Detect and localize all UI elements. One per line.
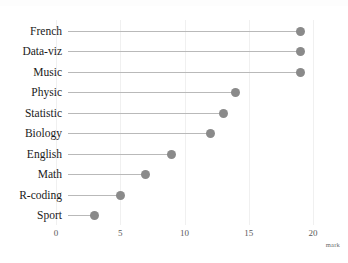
stem-line — [68, 51, 300, 52]
category-label-music: Music — [0, 62, 62, 82]
data-point-french[interactable] — [296, 27, 305, 36]
stem-line — [68, 72, 300, 73]
category-label-r-coding: R-coding — [0, 185, 62, 205]
category-label-statistic: Statistic — [0, 103, 62, 123]
category-label-physic: Physic — [0, 82, 62, 102]
x-axis-tick-5: 5 — [108, 228, 132, 238]
stem-line — [68, 92, 236, 93]
data-point-statistic[interactable] — [219, 109, 228, 118]
category-label-sport: Sport — [0, 205, 62, 225]
data-point-english[interactable] — [167, 150, 176, 159]
chart-row: R-coding — [0, 185, 348, 205]
x-axis-tick-20: 20 — [301, 228, 325, 238]
chart-row: Physic — [0, 82, 348, 102]
chart-row: English — [0, 144, 348, 164]
stem-line — [68, 31, 300, 32]
plot-area: FrenchData-vizMusicPhysicStatisticBiolog… — [0, 0, 348, 263]
data-point-physic[interactable] — [231, 88, 240, 97]
data-point-r-coding[interactable] — [116, 191, 125, 200]
data-point-biology[interactable] — [206, 129, 215, 138]
x-axis-tick-0: 0 — [44, 228, 68, 238]
category-label-english: English — [0, 144, 62, 164]
chart-row: Music — [0, 62, 348, 82]
category-label-french: French — [0, 21, 62, 41]
x-axis-tick-10: 10 — [173, 228, 197, 238]
chart-row: Sport — [0, 205, 348, 225]
category-label-math: Math — [0, 164, 62, 184]
category-label-biology: Biology — [0, 123, 62, 143]
data-point-music[interactable] — [296, 68, 305, 77]
stem-line — [68, 113, 223, 114]
lollipop-chart: FrenchData-vizMusicPhysicStatisticBiolog… — [0, 0, 348, 263]
chart-row: Biology — [0, 123, 348, 143]
chart-row: Data-viz — [0, 41, 348, 61]
x-axis-tick-15: 15 — [237, 228, 261, 238]
x-axis-title: mark — [326, 241, 340, 248]
chart-row: French — [0, 21, 348, 41]
chart-row: Math — [0, 164, 348, 184]
stem-line — [68, 154, 172, 155]
data-point-sport[interactable] — [90, 211, 99, 220]
chart-row: Statistic — [0, 103, 348, 123]
stem-line — [68, 174, 146, 175]
stem-line — [68, 133, 210, 134]
data-point-math[interactable] — [141, 170, 150, 179]
category-label-data-viz: Data-viz — [0, 41, 62, 61]
stem-line — [68, 195, 120, 196]
data-point-data-viz[interactable] — [296, 47, 305, 56]
